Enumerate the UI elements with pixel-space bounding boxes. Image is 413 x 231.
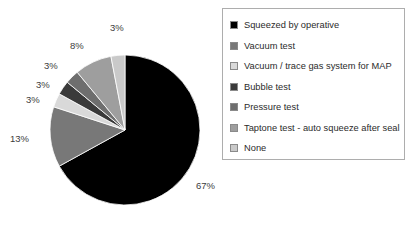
pie-slices-group	[50, 55, 200, 205]
legend-item-label: Pressure test	[244, 102, 299, 112]
legend-item-none: None	[230, 138, 404, 158]
legend-item-pressure-test: Pressure test	[230, 97, 404, 117]
pie-chart-figure: 67%13%3%3%3%8%3% Squeezed by operative V…	[0, 0, 413, 231]
pie-slice-value-label: 3%	[44, 60, 58, 71]
legend-item-label: Bubble test	[244, 82, 291, 92]
legend-swatch-icon	[230, 144, 238, 152]
legend-swatch-icon	[230, 103, 238, 111]
legend-item-taptone-test-auto-squeeze-after-seal: Taptone test - auto squeeze after seal	[230, 118, 404, 138]
pie-slice-value-label: 3%	[110, 22, 124, 33]
legend-item-squeezed-by-operative: Squeezed by operative	[230, 15, 404, 35]
legend-item-label: Vacuum test	[244, 41, 295, 51]
legend-item-label: Vacuum / trace gas system for MAP	[244, 61, 392, 71]
legend-swatch-icon	[230, 124, 238, 132]
pie-slice-value-label: 13%	[10, 133, 29, 144]
legend-item-label: Taptone test - auto squeeze after seal	[244, 123, 400, 133]
pie-slice-value-label: 3%	[36, 79, 50, 90]
legend-item-vacuum-trace-gas-system-for-map: Vacuum / trace gas system for MAP	[230, 56, 404, 76]
pie-plot-area: 67%13%3%3%3%8%3%	[0, 0, 218, 231]
legend-item-label: None	[244, 143, 266, 153]
legend-item-bubble-test: Bubble test	[230, 77, 404, 97]
legend-item-vacuum-test: Vacuum test	[230, 36, 404, 56]
pie-slice-value-label: 67%	[196, 180, 215, 191]
pie-slice-value-label: 3%	[26, 94, 40, 105]
chart-legend: Squeezed by operative Vacuum test Vacuum…	[222, 8, 405, 160]
legend-swatch-icon	[230, 83, 238, 91]
legend-swatch-icon	[230, 21, 238, 29]
legend-item-label: Squeezed by operative	[244, 20, 339, 30]
pie-svg	[0, 0, 218, 231]
pie-slice-value-label: 8%	[70, 40, 84, 51]
legend-swatch-icon	[230, 62, 238, 70]
legend-swatch-icon	[230, 42, 238, 50]
